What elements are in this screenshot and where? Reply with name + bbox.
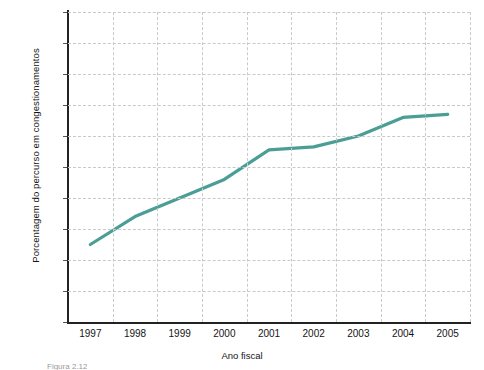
gridline-horizontal: [68, 43, 470, 44]
gridline-vertical: [381, 12, 382, 322]
gridline-horizontal: [68, 12, 470, 13]
gridline-vertical: [202, 12, 203, 322]
gridline-vertical: [157, 12, 158, 322]
y-tick-mark: [63, 167, 67, 168]
gridline-horizontal: [68, 74, 470, 75]
gridline-horizontal: [68, 167, 470, 168]
gridline-vertical: [247, 12, 248, 322]
y-tick-mark: [63, 322, 67, 323]
gridline-vertical: [291, 12, 292, 322]
gridline-vertical: [336, 12, 337, 322]
y-tick-mark: [63, 43, 67, 44]
gridline-horizontal: [68, 229, 470, 230]
gridline-horizontal: [68, 136, 470, 137]
gridline-vertical: [425, 12, 426, 322]
gridline-horizontal: [68, 105, 470, 106]
y-tick-mark: [63, 12, 67, 13]
figure-caption: Figura 2.12: [47, 362, 87, 370]
y-tick-mark: [63, 260, 67, 261]
x-tick-label: 2002: [290, 328, 338, 339]
x-tick-label: 1998: [111, 328, 159, 339]
y-tick-mark: [63, 291, 67, 292]
y-tick-mark: [63, 105, 67, 106]
y-tick-mark: [63, 136, 67, 137]
y-tick-mark: [63, 198, 67, 199]
y-tick-mark: [63, 229, 67, 230]
x-tick-label: 2003: [334, 328, 382, 339]
x-tick-label: 2005: [424, 328, 472, 339]
gridline-horizontal: [68, 198, 470, 199]
gridline-vertical: [470, 12, 471, 322]
chart-figure: Porcentagem do percurso em congestioname…: [0, 0, 484, 370]
x-tick-label: 2004: [379, 328, 427, 339]
x-tick-label: 1997: [66, 328, 114, 339]
y-tick-mark: [63, 74, 67, 75]
x-tick-label: 2000: [200, 328, 248, 339]
gridline-horizontal: [68, 291, 470, 292]
gridline-horizontal: [68, 260, 470, 261]
x-axis-line: [67, 322, 471, 324]
y-axis-title: Porcentagem do percurso em congestioname…: [30, 31, 41, 281]
x-axis-title: Ano fiscal: [0, 350, 484, 361]
gridline-vertical: [113, 12, 114, 322]
x-tick-label: 1999: [156, 328, 204, 339]
x-tick-label: 2001: [245, 328, 293, 339]
